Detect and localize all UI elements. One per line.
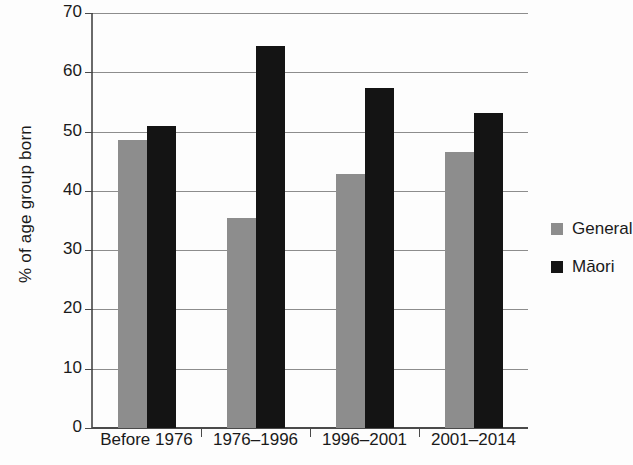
y-axis-tick-mark bbox=[85, 132, 93, 133]
y-axis-tick-label: 60 bbox=[63, 61, 82, 81]
x-axis-tick-label: 1996–2001 bbox=[310, 430, 419, 450]
y-axis-tick-mark bbox=[85, 13, 93, 14]
y-axis-tick-label: 30 bbox=[63, 239, 82, 259]
y-axis-title: % of age group born bbox=[16, 84, 36, 324]
y-axis-tick-mark bbox=[85, 191, 93, 192]
y-axis-line bbox=[91, 13, 93, 429]
legend-item-mori: Māori bbox=[551, 248, 632, 286]
y-axis-tick-label: 20 bbox=[63, 298, 82, 318]
gridline bbox=[92, 72, 528, 73]
y-axis-tick-mark bbox=[85, 309, 93, 310]
x-axis-tick-label: Before 1976 bbox=[92, 430, 201, 450]
chart-figure: % of age group born 010203040506070 Befo… bbox=[0, 0, 633, 465]
y-axis-tick-label: 70 bbox=[63, 2, 82, 22]
bar-mori-3 bbox=[474, 113, 503, 428]
y-axis-tick-label: 40 bbox=[63, 180, 82, 200]
legend-swatch-icon bbox=[551, 223, 563, 235]
x-axis-tick-label: 1976–1996 bbox=[201, 430, 310, 450]
bar-mori-2 bbox=[365, 88, 394, 428]
bar-general-3 bbox=[445, 152, 474, 428]
y-axis-tick-label: 10 bbox=[63, 358, 82, 378]
y-axis-tick-mark bbox=[85, 369, 93, 370]
bar-general-1 bbox=[227, 218, 256, 428]
plot-area: 010203040506070 bbox=[92, 13, 528, 428]
legend-item-general: General bbox=[551, 210, 632, 248]
gridline bbox=[92, 13, 528, 14]
y-axis-tick-label: 50 bbox=[63, 121, 82, 141]
bar-mori-1 bbox=[256, 46, 285, 428]
bar-general-0 bbox=[118, 140, 147, 428]
y-axis-tick-mark bbox=[85, 428, 93, 429]
y-axis-tick-mark bbox=[85, 72, 93, 73]
legend-swatch-icon bbox=[551, 261, 563, 273]
legend: GeneralMāori bbox=[551, 210, 632, 286]
bar-general-2 bbox=[336, 174, 365, 428]
bar-mori-0 bbox=[147, 126, 176, 428]
legend-label: General bbox=[572, 219, 632, 239]
legend-label: Māori bbox=[572, 257, 615, 277]
x-axis-tick-label: 2001–2014 bbox=[419, 430, 528, 450]
y-axis-tick-label: 0 bbox=[73, 417, 82, 437]
y-axis-tick-mark bbox=[85, 250, 93, 251]
